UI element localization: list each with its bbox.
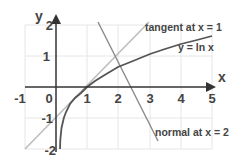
- y-tick-labels: 2 1 -1 -2: [41, 18, 56, 158]
- x-axis-label: x: [218, 69, 226, 85]
- svg-text:-1: -1: [14, 91, 26, 106]
- chart: y x -1 0 1 2 3 4 5 2 1 -1 -2 tangent at …: [0, 0, 239, 167]
- svg-text:-1: -1: [41, 111, 53, 126]
- svg-text:1: 1: [43, 49, 50, 64]
- svg-text:2: 2: [114, 91, 121, 106]
- tangent-label: tangent at x = 1: [145, 21, 222, 33]
- y-axis-label: y: [35, 8, 43, 24]
- svg-text:0: 0: [45, 91, 52, 106]
- normal-line: [98, 22, 158, 141]
- curve-label: y = ln x: [178, 41, 214, 53]
- svg-text:3: 3: [146, 91, 153, 106]
- svg-text:2: 2: [46, 18, 53, 33]
- svg-text:-2: -2: [44, 143, 56, 158]
- svg-text:1: 1: [83, 91, 90, 106]
- x-tick-labels: -1 0 1 2 3 4 5: [14, 91, 215, 106]
- svg-text:5: 5: [208, 91, 215, 106]
- normal-label: normal at x = 2: [155, 126, 229, 138]
- svg-text:4: 4: [177, 91, 185, 106]
